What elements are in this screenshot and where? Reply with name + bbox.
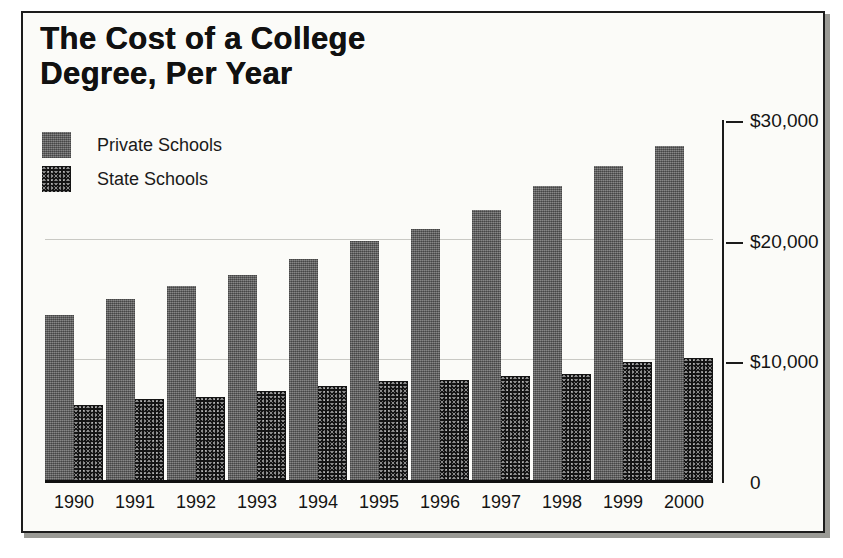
y-tick-mark-30000	[726, 121, 743, 123]
x-tick-label-1992: 1992	[167, 492, 225, 513]
bar-group-1990	[45, 118, 103, 480]
x-tick-label-1996: 1996	[411, 492, 469, 513]
bar-group-1997	[472, 118, 530, 480]
bar-state-2000	[684, 358, 713, 480]
bar-state-1990	[74, 405, 103, 480]
bar-state-1999	[623, 362, 652, 480]
x-tick-label-2000: 2000	[655, 492, 713, 513]
plot-area	[45, 118, 713, 483]
bar-state-1994	[318, 386, 347, 480]
x-axis-labels: 1990199119921993199419951996199719981999…	[45, 492, 713, 513]
bar-private-1993	[228, 275, 257, 480]
y-tick-label-20000: $20,000	[750, 231, 819, 253]
bar-series-container	[45, 118, 713, 480]
x-tick-label-1993: 1993	[228, 492, 286, 513]
bar-state-1998	[562, 374, 591, 480]
bar-private-1990	[45, 315, 74, 480]
x-tick-label-1991: 1991	[106, 492, 164, 513]
bar-group-1995	[350, 118, 408, 480]
x-axis-baseline	[45, 480, 713, 483]
bar-state-1993	[257, 391, 286, 480]
y-tick-mark-10000	[726, 362, 743, 364]
bar-state-1996	[440, 380, 469, 480]
bar-group-1998	[533, 118, 591, 480]
bar-group-1999	[594, 118, 652, 480]
y-tick-label-30000: $30,000	[750, 110, 819, 132]
bar-group-1993	[228, 118, 286, 480]
x-tick-label-1994: 1994	[289, 492, 347, 513]
bar-group-1994	[289, 118, 347, 480]
bar-state-1991	[135, 399, 164, 480]
bar-private-1998	[533, 186, 562, 480]
bar-group-1991	[106, 118, 164, 480]
bar-private-1997	[472, 210, 501, 480]
bar-private-1991	[106, 299, 135, 480]
bar-group-2000	[655, 118, 713, 480]
bar-group-1996	[411, 118, 469, 480]
bar-state-1995	[379, 381, 408, 480]
x-tick-label-1998: 1998	[533, 492, 591, 513]
bar-private-1995	[350, 241, 379, 480]
bar-private-1999	[594, 166, 623, 480]
y-tick-label-10000: $10,000	[750, 351, 819, 373]
bar-private-1996	[411, 229, 440, 480]
y-tick-label-0: 0	[750, 472, 761, 494]
y-axis-line	[722, 120, 724, 483]
x-tick-label-1997: 1997	[472, 492, 530, 513]
x-tick-label-1999: 1999	[594, 492, 652, 513]
bar-state-1997	[501, 376, 530, 480]
chart-page: The Cost of a College Degree, Per Year P…	[0, 0, 843, 558]
bar-private-1992	[167, 286, 196, 480]
x-tick-label-1990: 1990	[45, 492, 103, 513]
x-tick-label-1995: 1995	[350, 492, 408, 513]
bar-group-1992	[167, 118, 225, 480]
y-tick-mark-20000	[726, 242, 743, 244]
bar-private-1994	[289, 259, 318, 480]
bar-state-1992	[196, 397, 225, 480]
chart-title: The Cost of a College Degree, Per Year	[40, 22, 700, 91]
bar-private-2000	[655, 146, 684, 480]
